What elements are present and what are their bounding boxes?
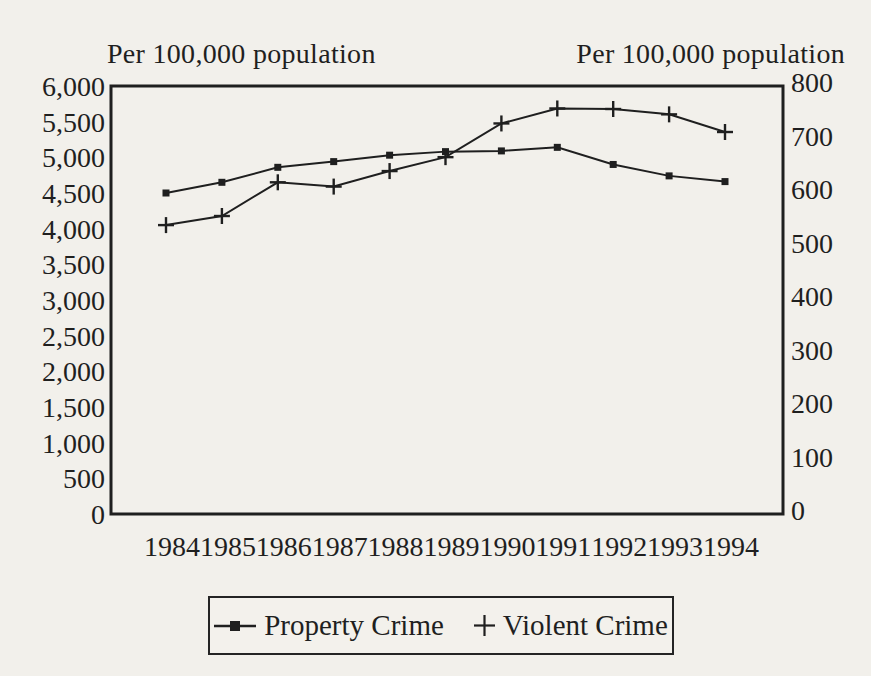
x-axis-year-label: 1989: [424, 531, 480, 562]
x-axis-year-label: 1990: [479, 531, 535, 562]
square-line-marker-icon: [214, 619, 256, 633]
crime-rate-line-chart: 05001,0001,5002,0002,5003,0003,5004,0004…: [0, 0, 871, 676]
x-axis-year-label: 1993: [647, 531, 703, 562]
right-axis-tick-label: 200: [791, 388, 833, 419]
x-axis-year-label: 1991: [535, 531, 591, 562]
x-axis-year-label: 1988: [368, 531, 424, 562]
right-axis-tick-label: 700: [791, 121, 833, 152]
x-axis-year-label: 1984: [144, 531, 200, 562]
square-marker-property-crime: [554, 144, 561, 151]
legend-label-property-crime: Property Crime: [264, 609, 444, 642]
square-marker-property-crime: [610, 161, 617, 168]
left-axis-tick-label: 5,500: [42, 107, 105, 138]
right-axis-tick-label: 800: [791, 67, 833, 98]
legend-item-violent-crime: Violent Crime: [474, 609, 668, 642]
square-marker-property-crime: [218, 179, 225, 186]
square-marker-property-crime: [330, 158, 337, 165]
right-axis-tick-label: 500: [791, 228, 833, 259]
x-axis-year-label: 1992: [591, 531, 647, 562]
legend-label-violent-crime: Violent Crime: [503, 609, 668, 642]
x-axis-year-label: 1994: [703, 531, 759, 562]
right-axis-tick-label: 600: [791, 174, 833, 205]
square-marker-property-crime: [722, 178, 729, 185]
series-line-violent-crime: [166, 108, 725, 225]
square-marker-property-crime: [498, 147, 505, 154]
left-axis-tick-label: 4,500: [42, 178, 105, 209]
chart-legend: Property Crime Violent Crime: [208, 596, 674, 655]
x-axis-year-label: 1985: [200, 531, 256, 562]
square-marker-property-crime: [274, 164, 281, 171]
x-axis-year-label: 1986: [256, 531, 312, 562]
left-axis-tick-label: 6,000: [42, 71, 105, 102]
left-axis-tick-label: 1,000: [42, 428, 105, 459]
left-axis-tick-label: 3,500: [42, 249, 105, 280]
left-axis-tick-label: 4,000: [42, 214, 105, 245]
left-axis-tick-label: 5,000: [42, 142, 105, 173]
left-axis-tick-label: 2,000: [42, 356, 105, 387]
left-axis-tick-label: 0: [91, 499, 105, 530]
left-axis-tick-label: 500: [63, 463, 105, 494]
square-marker-property-crime: [163, 190, 170, 197]
left-axis-tick-label: 3,000: [42, 285, 105, 316]
right-axis-tick-label: 0: [791, 495, 805, 526]
scanned-chart-page: Per 100,000 population Per 100,000 popul…: [0, 0, 871, 676]
legend-item-property-crime: Property Crime: [214, 609, 444, 642]
right-axis-tick-label: 300: [791, 335, 833, 366]
left-axis-tick-label: 1,500: [42, 392, 105, 423]
left-axis-tick-label: 2,500: [42, 321, 105, 352]
plus-marker-icon: [474, 615, 495, 636]
right-axis-tick-label: 400: [791, 281, 833, 312]
square-marker-property-crime: [386, 152, 393, 159]
right-axis-tick-label: 100: [791, 442, 833, 473]
x-axis-year-label: 1987: [312, 531, 368, 562]
square-marker-property-crime: [666, 172, 673, 179]
